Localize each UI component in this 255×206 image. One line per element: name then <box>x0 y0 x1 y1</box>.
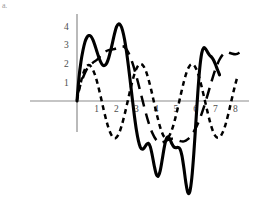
figure-container: a. 12345678 1234 <box>0 0 255 206</box>
y-axis-tick-labels: 1234 <box>64 22 69 88</box>
y-tick-label-3: 3 <box>64 40 69 50</box>
y-tick-label-4: 4 <box>64 22 69 32</box>
axes-group <box>30 14 249 132</box>
curves-group <box>77 24 243 194</box>
x-axis-tick-labels: 12345678 <box>94 104 238 114</box>
x-tick-label-1: 1 <box>94 104 99 114</box>
y-tick-label-2: 2 <box>64 59 69 69</box>
x-tick-label-7: 7 <box>213 104 218 114</box>
plot-canvas: 12345678 1234 <box>0 0 255 206</box>
x-tick-label-8: 8 <box>233 104 238 114</box>
y-tick-label-1: 1 <box>64 78 69 88</box>
x-tick-label-2: 2 <box>114 104 119 114</box>
